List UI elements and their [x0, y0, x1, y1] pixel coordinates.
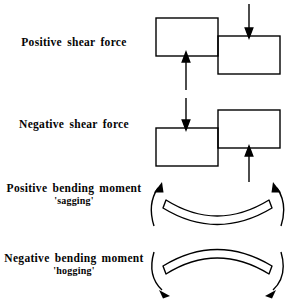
figure-positive-shear-force: [148, 8, 287, 96]
sign-convention-diagram: Positive shear force Negative: [0, 0, 287, 307]
moment-arrow-left: [151, 188, 158, 226]
row-negative-shear-force: Negative shear force: [0, 96, 287, 180]
shear-block-left: [156, 18, 218, 56]
label-negative-bending-moment: Negative bending moment 'hogging': [0, 252, 148, 277]
moment-arrow-right: [277, 188, 284, 226]
arrow-up-right: [245, 146, 253, 182]
beam-hogging: [163, 250, 272, 275]
row-positive-bending-moment: Positive bending moment 'sagging': [0, 178, 287, 236]
label-positive-shear-force: Positive shear force: [0, 36, 148, 49]
label-line-1: Negative bending moment: [4, 252, 143, 264]
row-negative-bending-moment: Negative bending moment 'hogging': [0, 240, 287, 304]
beam-sagging: [163, 200, 272, 225]
arrow-down-right: [245, 4, 253, 38]
label-line-1: Positive bending moment: [7, 182, 142, 194]
moment-arrow-left: [152, 252, 162, 290]
shear-block-right: [218, 36, 280, 74]
arrow-down-left: [182, 98, 190, 130]
label-line-1: Negative shear force: [19, 118, 129, 130]
label-line-2: 'hogging': [0, 265, 148, 277]
label-negative-shear-force: Negative shear force: [0, 118, 148, 131]
moment-arrowhead-right: [265, 290, 276, 299]
moment-arrowhead-left: [159, 290, 170, 299]
arrow-up-left: [182, 52, 190, 90]
moment-arrowhead-left: [154, 182, 164, 193]
moment-arrowhead-right: [272, 182, 282, 193]
shear-block-left: [156, 128, 218, 166]
figure-negative-shear-force: [148, 96, 287, 180]
figure-negative-bending-moment: [148, 240, 287, 304]
label-line-2: 'sagging': [0, 195, 148, 207]
figure-positive-bending-moment: [148, 178, 287, 236]
label-line-1: Positive shear force: [21, 36, 126, 48]
row-positive-shear-force: Positive shear force: [0, 8, 287, 96]
shear-block-right: [218, 110, 280, 148]
moment-arrow-right: [273, 252, 283, 290]
label-positive-bending-moment: Positive bending moment 'sagging': [0, 182, 148, 207]
